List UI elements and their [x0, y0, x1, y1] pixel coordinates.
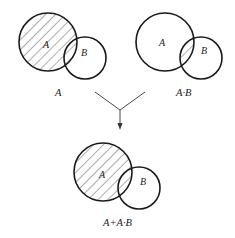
panel-a-and-b: A B A·B	[136, 13, 222, 98]
circle-b-label: B	[201, 45, 207, 56]
circle-a-label: A	[42, 39, 50, 50]
panel-caption: A	[54, 87, 62, 98]
arrow-head-icon	[118, 123, 123, 130]
venn-diagram: A B A A B A·B A B A+A·B	[0, 0, 235, 238]
merge-arrow	[95, 92, 145, 130]
circle-b-label: B	[81, 47, 87, 58]
circle-b-label: B	[140, 176, 146, 187]
circle-a-label: A	[98, 169, 106, 180]
panel-a-plus-a-and-b: A B A+A·B	[74, 143, 160, 228]
panel-a: A B A	[19, 13, 106, 98]
circle-a-label: A	[158, 37, 166, 48]
panel-caption: A·B	[175, 87, 192, 98]
panel-caption: A+A·B	[102, 217, 133, 228]
